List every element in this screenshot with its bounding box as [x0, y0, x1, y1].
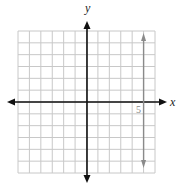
line-top-arrow-icon: [141, 33, 146, 41]
y-axis-label: y: [84, 1, 91, 15]
line-bottom-arrow-icon: [141, 160, 146, 168]
x-axis-left-arrow-icon: [7, 99, 15, 106]
x-axis-label: x: [169, 95, 176, 109]
x-tick-label-5: 5: [136, 104, 141, 115]
y-axis-bottom-arrow-icon: [84, 175, 91, 183]
series-layer: [141, 33, 146, 168]
x-axis-right-arrow-icon: [159, 99, 167, 106]
y-axis-top-arrow-icon: [84, 21, 91, 29]
coordinate-plane: x y 5: [0, 0, 182, 184]
